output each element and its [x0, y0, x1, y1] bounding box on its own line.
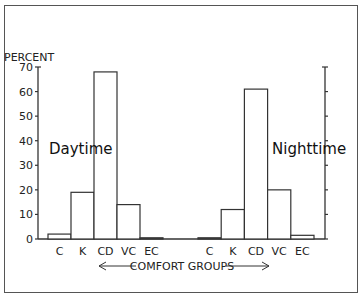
x-tick-label: CD [97, 245, 113, 258]
x-tick-label: C [206, 245, 214, 258]
bar-nighttime-vc [268, 190, 291, 239]
x-tick-label: VC [272, 245, 288, 258]
series-label-daytime: Daytime [49, 140, 113, 158]
bar-nighttime-cd [244, 89, 267, 239]
x-tick-label: CD [248, 245, 264, 258]
x-tick-label: EC [295, 245, 310, 258]
y-tick-label: 30 [19, 159, 33, 172]
series-label-nighttime: Nighttime [272, 140, 346, 158]
y-tick-label: 60 [19, 86, 33, 99]
y-tick-label: 20 [19, 184, 33, 197]
y-tick-label: 0 [26, 233, 33, 246]
bar-daytime-vc [117, 205, 140, 239]
y-tick-label: 50 [19, 110, 33, 123]
bar-nighttime-k [221, 210, 244, 239]
x-tick-label: K [79, 245, 87, 258]
x-tick-label: VC [121, 245, 137, 258]
bar-daytime-ec [140, 238, 163, 239]
x-axis-label: COMFORT GROUPS [130, 260, 234, 273]
y-axis-label: PERCENT [4, 51, 55, 64]
bar-nighttime-c [198, 238, 221, 239]
x-tick-label: K [229, 245, 237, 258]
bar-daytime-c [48, 234, 71, 239]
bar-chart: 010203040506070PERCENTCKCDVCECCKCDVCECDa… [0, 0, 364, 301]
bar-daytime-k [71, 192, 94, 239]
x-tick-label: C [56, 245, 64, 258]
bar-nighttime-ec [291, 235, 314, 239]
y-tick-label: 10 [19, 208, 33, 221]
x-tick-label: EC [144, 245, 159, 258]
y-tick-label: 40 [19, 135, 33, 148]
